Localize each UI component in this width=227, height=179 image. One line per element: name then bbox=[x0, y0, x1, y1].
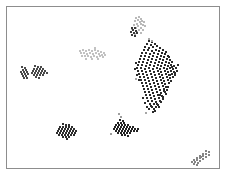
scatter-point bbox=[202, 158, 204, 160]
scatter-point bbox=[196, 164, 198, 166]
scatter-point bbox=[193, 163, 195, 165]
scatter-point bbox=[205, 153, 207, 155]
scatter-point bbox=[208, 154, 210, 156]
scatter-plot-figure bbox=[0, 0, 227, 179]
plot-area bbox=[7, 7, 219, 168]
scatter-point bbox=[208, 151, 210, 153]
scatter-point bbox=[196, 159, 198, 161]
scatter-point bbox=[205, 156, 207, 158]
scatter-point bbox=[202, 155, 204, 157]
scatter-point bbox=[199, 160, 201, 162]
scatter-point bbox=[200, 156, 202, 158]
plot-frame bbox=[6, 6, 220, 169]
scatter-series-cluster-bottom-right-gray bbox=[7, 7, 219, 168]
scatter-point bbox=[205, 150, 207, 152]
